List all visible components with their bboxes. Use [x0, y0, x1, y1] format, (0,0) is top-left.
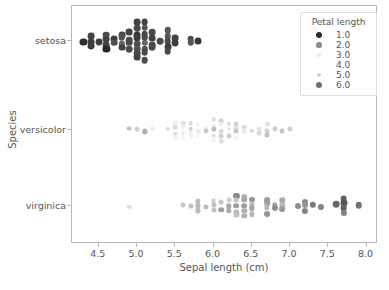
data-point	[219, 200, 224, 205]
legend-title: Petal length	[306, 17, 371, 27]
data-point	[234, 203, 240, 209]
legend-label: 6.0	[336, 80, 350, 90]
x-tick-label: 5.5	[167, 248, 182, 259]
legend-marker-cell	[306, 73, 332, 78]
data-point	[172, 39, 179, 46]
data-point	[241, 197, 247, 203]
data-point	[141, 57, 148, 64]
x-tick-label: 6.5	[243, 248, 258, 259]
legend-label: 2.0	[336, 40, 350, 50]
legend-marker-icon	[316, 32, 322, 38]
data-point	[272, 127, 277, 132]
data-point	[234, 212, 239, 217]
data-point	[173, 120, 177, 124]
data-point	[219, 139, 224, 144]
data-point	[264, 211, 270, 217]
data-point	[142, 129, 147, 134]
data-point	[196, 208, 201, 213]
data-point	[173, 125, 178, 130]
data-point	[203, 129, 208, 134]
legend: Petal length 1.02.03.04.05.06.0	[300, 12, 377, 96]
data-point	[249, 206, 255, 212]
y-axis-label: Species	[7, 90, 18, 170]
data-point	[181, 124, 185, 128]
data-point	[279, 207, 285, 213]
legend-label: 3.0	[336, 50, 350, 60]
data-point	[265, 122, 270, 127]
figure: 4.55.05.56.06.57.07.58.0 setosaversicolo…	[0, 0, 389, 290]
legend-marker-cell	[306, 53, 332, 57]
x-tick-mark	[136, 243, 137, 247]
data-point	[188, 121, 193, 126]
data-point	[227, 121, 232, 126]
data-point	[265, 133, 270, 138]
legend-marker-cell	[306, 32, 332, 38]
data-point	[95, 39, 102, 46]
legend-marker-icon	[317, 63, 321, 67]
data-point	[118, 44, 125, 51]
data-point	[127, 126, 132, 131]
data-point	[218, 207, 224, 213]
legend-item: 1.0	[306, 30, 371, 40]
legend-label: 5.0	[336, 70, 350, 80]
y-tick-label: virginica	[26, 199, 66, 210]
data-point	[264, 205, 269, 210]
data-point	[211, 127, 216, 132]
data-point	[203, 204, 208, 209]
legend-item: 2.0	[306, 40, 371, 50]
legend-item: 4.0	[306, 60, 371, 70]
x-tick-mark	[289, 243, 290, 247]
data-point	[149, 44, 156, 51]
data-point	[118, 34, 125, 41]
x-tick-label: 8.0	[358, 248, 373, 259]
legend-item: 3.0	[306, 50, 371, 60]
y-tick-label: setosa	[35, 34, 66, 45]
data-point	[219, 134, 224, 139]
data-point	[135, 127, 140, 132]
data-point	[196, 123, 200, 127]
data-point	[226, 197, 231, 202]
data-point	[249, 128, 254, 133]
legend-marker-cell	[306, 82, 332, 88]
data-point	[126, 29, 133, 36]
data-point	[234, 129, 239, 134]
data-point	[333, 201, 340, 208]
data-point	[126, 46, 133, 53]
x-tick-mark	[98, 243, 99, 247]
data-point	[187, 39, 194, 46]
data-point	[195, 37, 202, 44]
data-point	[80, 38, 87, 45]
data-point	[211, 117, 216, 122]
data-point	[249, 212, 254, 217]
x-tick-label: 5.0	[128, 248, 143, 259]
legend-entries: 1.02.03.04.05.06.0	[306, 30, 371, 90]
data-point	[188, 204, 193, 209]
data-point	[180, 202, 185, 207]
y-tick-label: versicolor	[20, 123, 66, 134]
legend-marker-icon	[317, 53, 321, 57]
data-point	[340, 210, 346, 216]
x-tick-mark	[327, 243, 328, 247]
data-point	[111, 39, 118, 46]
data-point	[164, 48, 171, 55]
data-point	[227, 126, 231, 130]
data-point	[103, 46, 110, 53]
data-point	[127, 204, 132, 209]
y-tick-mark	[67, 129, 71, 130]
data-point	[226, 208, 232, 214]
data-point	[211, 139, 215, 143]
data-point	[226, 133, 231, 138]
data-point	[157, 38, 164, 45]
data-point	[288, 126, 293, 131]
x-tick-mark	[366, 243, 367, 247]
x-tick-label: 4.5	[90, 248, 105, 259]
legend-label: 4.0	[336, 60, 350, 70]
data-point	[181, 136, 185, 140]
data-point	[173, 135, 177, 139]
data-point	[318, 204, 324, 210]
data-point	[188, 134, 192, 138]
y-tick-mark	[67, 40, 71, 41]
x-tick-label: 7.0	[281, 248, 296, 259]
data-point	[134, 54, 141, 61]
data-point	[150, 127, 154, 131]
